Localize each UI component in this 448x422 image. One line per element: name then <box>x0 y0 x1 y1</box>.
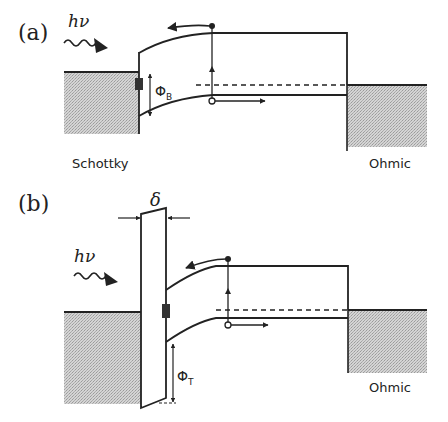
barrier-label-b: ΦT <box>177 368 194 387</box>
panel-b-label: (b) <box>18 191 49 216</box>
photon-label: hν <box>68 11 89 31</box>
schottky-metal-b <box>64 312 141 404</box>
hole-icon <box>209 98 215 104</box>
schottky-metal <box>64 72 139 134</box>
thickness-label: δ <box>150 189 161 210</box>
ohmic-label-b: Ohmic <box>369 380 411 395</box>
band-diagram: (a) hν ΦB Schottky O <box>0 0 448 422</box>
ohmic-metal-b <box>348 310 427 373</box>
interface-states-icon-b <box>162 304 170 318</box>
conduction-band-b <box>166 266 348 310</box>
schottky-label: Schottky <box>72 156 129 171</box>
photon-label-b: hν <box>74 246 95 266</box>
hole-icon-b <box>225 322 231 328</box>
photon-icon: hν <box>64 11 108 53</box>
valence-band-b <box>166 318 348 342</box>
conduction-band <box>139 33 347 85</box>
panel-a-label: (a) <box>18 20 48 45</box>
ohmic-label-a: Ohmic <box>369 156 411 171</box>
panel-b: (b) δ hν ΦT <box>18 189 427 408</box>
barrier-label: ΦB <box>155 83 172 102</box>
panel-a: (a) hν ΦB Schottky O <box>18 11 427 171</box>
photon-icon-b: hν <box>74 246 118 286</box>
ohmic-metal-a <box>347 85 427 147</box>
interface-states-icon <box>135 78 143 90</box>
electron-drift-arrow <box>168 25 210 28</box>
